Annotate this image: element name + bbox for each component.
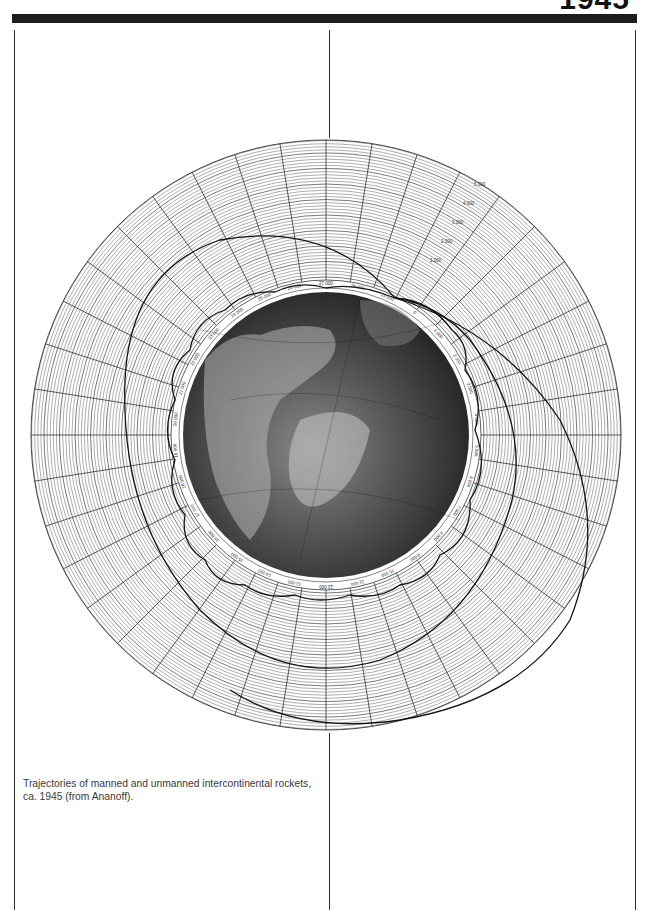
altitude-label: 2 000: [441, 239, 453, 244]
figure-caption: Trajectories of manned and unmanned inte…: [23, 777, 323, 803]
altitude-label: 3 000: [452, 220, 464, 225]
ring-tick-label: 12 000: [319, 584, 333, 589]
altitude-label: 4 000: [463, 201, 475, 206]
altitude-label: 1 000: [430, 258, 442, 263]
altitude-label: 5 000: [474, 182, 486, 187]
ring-tick-label: 27 000: [319, 281, 333, 286]
